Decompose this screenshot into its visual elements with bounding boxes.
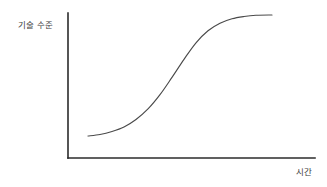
chart-figure: 기술 수준 시간	[0, 0, 327, 187]
technology-s-curve	[88, 15, 272, 136]
y-axis-label: 기술 수준	[18, 21, 53, 30]
x-axis-label: 시간	[296, 168, 312, 177]
